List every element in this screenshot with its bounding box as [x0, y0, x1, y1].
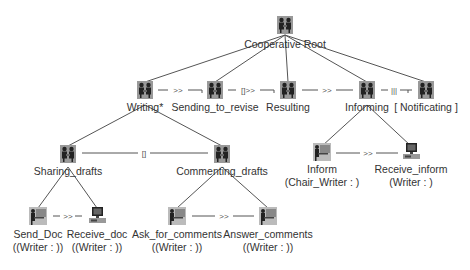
- node-receive-inform[interactable]: Receive_inform: [375, 163, 448, 175]
- relation-enabling: >>: [63, 212, 72, 221]
- node-sharing-drafts[interactable]: Sharing_drafts: [34, 165, 102, 177]
- relation-enabling: >>: [219, 212, 228, 221]
- relation-enabling: >>: [363, 149, 372, 158]
- node-ask-for-comments-role: ((Writer : )): [152, 241, 203, 253]
- relation-interleaving: |||: [391, 86, 397, 95]
- node-inform[interactable]: Inform: [307, 163, 337, 175]
- node-receive-doc-role: ((Writer : )): [72, 241, 123, 253]
- relation-choice: []: [142, 149, 146, 158]
- node-resulting[interactable]: Resulting: [266, 101, 310, 113]
- root-node-label[interactable]: Cooperative Root: [244, 38, 326, 50]
- node-answer-comments-role: ((Writer : )): [243, 241, 294, 253]
- node-writing[interactable]: Writing*: [127, 101, 164, 113]
- node-receive-doc[interactable]: Receive_doc: [67, 228, 128, 240]
- node-inform-role: (Chair_Writer : ): [285, 176, 359, 188]
- node-receive-inform-role: (Writer : ): [389, 176, 433, 188]
- node-answer-comments[interactable]: Answer_comments: [223, 228, 312, 240]
- node-ask-for-comments[interactable]: Ask_for_comments: [132, 228, 222, 240]
- relation-deactivation-enabling: []>>: [241, 86, 255, 95]
- node-notificating[interactable]: [ Notificating ]: [394, 101, 458, 113]
- node-commenting-drafts[interactable]: Commenting_drafts: [176, 165, 268, 177]
- node-sending-to-revise[interactable]: Sending_to_revise: [172, 101, 259, 113]
- relation-enabling: >>: [322, 86, 331, 95]
- node-informing[interactable]: Informing: [345, 101, 389, 113]
- node-send-doc-role: ((Writer : )): [13, 241, 64, 253]
- root-pair-icon[interactable]: [277, 16, 293, 34]
- relation-enabling: >>: [173, 86, 182, 95]
- node-send-doc[interactable]: Send_Doc: [13, 228, 62, 240]
